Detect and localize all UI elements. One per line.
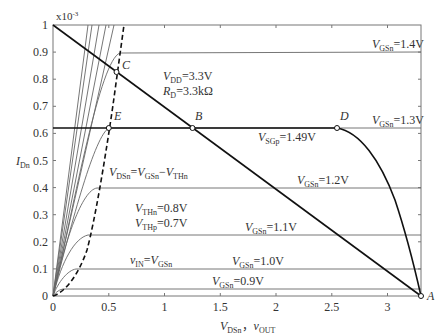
svg-text:VTHp=0.7V: VTHp=0.7V bbox=[135, 216, 188, 232]
y-axis-label: IDn bbox=[15, 154, 30, 170]
point-B bbox=[190, 126, 195, 131]
svg-text:1: 1 bbox=[42, 18, 48, 32]
svg-text:VDD=3.3V: VDD=3.3V bbox=[163, 69, 213, 85]
pmos-load-curve bbox=[53, 128, 421, 296]
svg-text:1.5: 1.5 bbox=[213, 300, 228, 314]
svg-text:0.7: 0.7 bbox=[33, 99, 48, 113]
y-tick-labels: 0 0.1 0.2 0.3 0.4 0.5 0.6 0.7 0.8 0.9 1 bbox=[33, 18, 48, 303]
svg-text:0.5: 0.5 bbox=[101, 300, 116, 314]
vgs-labels: VGSn=1.4V VGSn=1.3V VGSn=1.2V VGSn=1.1V … bbox=[212, 37, 424, 290]
svg-text:VGSn=1.0V: VGSn=1.0V bbox=[232, 254, 284, 270]
svg-text:3: 3 bbox=[385, 300, 391, 314]
x-tick-labels: 0 0.5 1 1.5 2 2.5 3 bbox=[50, 300, 391, 314]
svg-text:0.1: 0.1 bbox=[33, 262, 48, 276]
point-A bbox=[419, 294, 424, 299]
point-D bbox=[335, 126, 340, 131]
svg-text:VSGp=1.49V: VSGp=1.49V bbox=[258, 130, 316, 146]
svg-text:0.5: 0.5 bbox=[33, 154, 48, 168]
svg-text:D: D bbox=[339, 109, 349, 123]
svg-text:VGSn=1.4V: VGSn=1.4V bbox=[372, 37, 424, 53]
svg-text:VGSn=1.2V: VGSn=1.2V bbox=[297, 173, 349, 189]
svg-text:0: 0 bbox=[50, 300, 56, 314]
svg-text:VGSn=0.9V: VGSn=0.9V bbox=[212, 274, 264, 290]
point-E bbox=[106, 126, 111, 131]
svg-text:VGSn=1.3V: VGSn=1.3V bbox=[372, 113, 424, 129]
y-multiplier: x10-3 bbox=[56, 10, 79, 22]
svg-text:2.5: 2.5 bbox=[324, 300, 339, 314]
svg-text:0.4: 0.4 bbox=[33, 181, 48, 195]
chart: 0 0.1 0.2 0.3 0.4 0.5 0.6 0.7 0.8 0.9 1 … bbox=[0, 0, 447, 336]
svg-text:C: C bbox=[122, 58, 131, 72]
x-axis-label: VDSn，vOUT bbox=[220, 319, 275, 335]
svg-text:0.3: 0.3 bbox=[33, 208, 48, 222]
svg-text:E: E bbox=[113, 109, 122, 123]
svg-text:1: 1 bbox=[162, 300, 168, 314]
svg-text:vIN=VGSn: vIN=VGSn bbox=[130, 253, 172, 269]
svg-text:B: B bbox=[195, 109, 203, 123]
point-C bbox=[114, 70, 119, 75]
svg-text:0.2: 0.2 bbox=[33, 235, 48, 249]
svg-text:0: 0 bbox=[42, 289, 48, 303]
svg-text:RD=3.3kΩ: RD=3.3kΩ bbox=[162, 84, 213, 100]
svg-text:0.6: 0.6 bbox=[33, 126, 48, 140]
svg-text:0.9: 0.9 bbox=[33, 45, 48, 59]
svg-text:VDSn=VGSn−VTHn: VDSn=VGSn−VTHn bbox=[109, 165, 188, 181]
svg-text:0.8: 0.8 bbox=[33, 72, 48, 86]
annotations: VDD=3.3V RD=3.3kΩ VSGp=1.49V VDSn=VGSn−V… bbox=[109, 69, 316, 269]
svg-text:2: 2 bbox=[273, 300, 279, 314]
svg-text:VGSn=1.1V: VGSn=1.1V bbox=[245, 220, 297, 236]
svg-text:VTHn=0.8V: VTHn=0.8V bbox=[135, 201, 188, 217]
svg-text:A: A bbox=[426, 289, 435, 303]
